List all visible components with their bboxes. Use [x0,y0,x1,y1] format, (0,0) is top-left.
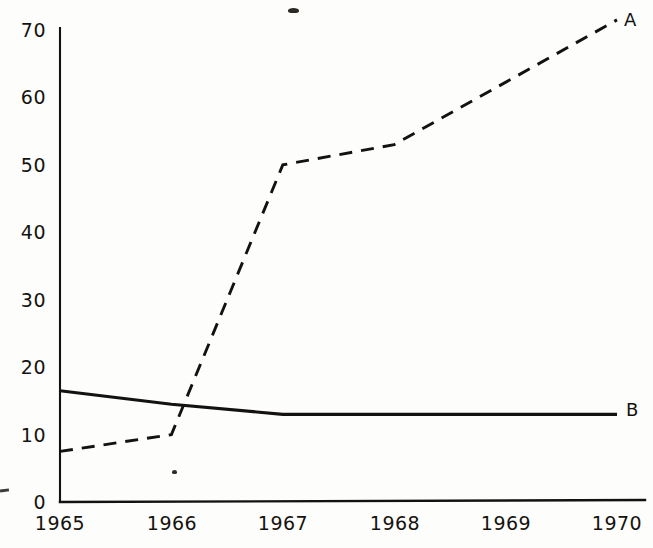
x-tick-label-1965: 1965 [35,512,85,534]
x-axis-line [60,500,645,502]
y-tick-label-70: 70 [2,19,46,41]
chart-canvas [0,0,653,548]
y-tick-label-0: 0 [2,491,46,513]
chart-figure: 0 10 20 30 40 50 60 70 1965 1966 1967 19… [0,0,653,548]
y-tick-label-30: 30 [2,289,46,311]
series-line-b [60,391,617,415]
x-tick-label-1969: 1969 [481,512,531,534]
y-tick-label-50: 50 [2,154,46,176]
series-label-b: B [626,399,638,420]
scan-speck-top [288,8,299,13]
x-tick-label-1970: 1970 [592,512,642,534]
x-tick-label-1966: 1966 [147,512,197,534]
chart-plot-area: 0 10 20 30 40 50 60 70 1965 1966 1967 19… [0,0,653,548]
scan-speck-mid [172,470,177,474]
series-label-a: A [624,9,636,30]
y-tick-label-20: 20 [2,356,46,378]
series-line-a [60,20,617,452]
y-tick-label-40: 40 [2,221,46,243]
x-tick-label-1968: 1968 [370,512,420,534]
y-tick-label-10: 10 [2,424,46,446]
x-tick-label-1967: 1967 [258,512,308,534]
y-tick-label-60: 60 [2,86,46,108]
